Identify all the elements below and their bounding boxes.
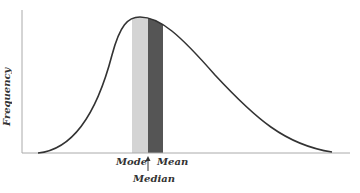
mode-median-band bbox=[132, 0, 148, 153]
median-label: Median bbox=[133, 173, 175, 184]
mode-label: Mode bbox=[116, 156, 147, 167]
mean-label: Mean bbox=[157, 156, 188, 167]
y-axis-label: Frequency bbox=[1, 62, 17, 132]
distribution-curve bbox=[38, 17, 332, 153]
